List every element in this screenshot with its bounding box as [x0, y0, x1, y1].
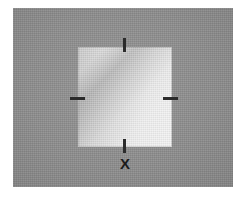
tick-mark-top: [123, 38, 126, 52]
tick-mark-bottom: [123, 139, 126, 153]
tick-mark-right: [163, 97, 178, 100]
tick-mark-left: [70, 97, 85, 100]
region-texture-overlay: [78, 47, 172, 147]
figure-canvas: X: [0, 0, 247, 203]
bright-square-region: [78, 47, 172, 147]
x-marker-label: X: [117, 156, 133, 172]
